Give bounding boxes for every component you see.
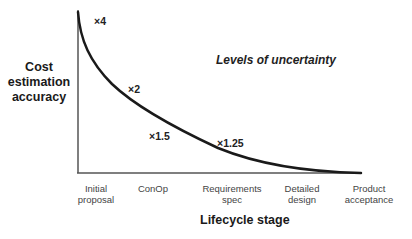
annotation-x2: ×2: [128, 83, 140, 95]
x-axis-label: Lifecycle stage: [200, 213, 290, 227]
annotation-x1-5: ×1.5: [149, 130, 170, 142]
annotation-x4: ×4: [94, 15, 106, 27]
y-axis-label-line-2: estimation: [4, 75, 74, 90]
annotation-x1-25: ×1.25: [217, 137, 244, 149]
x-tick-product-acceptance: Product acceptance: [345, 183, 394, 205]
x-tick-conop: ConOp: [138, 183, 168, 194]
chart-title: Levels of uncertainty: [216, 53, 336, 67]
x-tick-initial-proposal: Initial proposal: [78, 183, 114, 205]
y-axis-label-line-1: Cost: [4, 60, 74, 75]
y-axis-label: Cost estimation accuracy: [4, 60, 74, 105]
x-tick-requirements-spec: Requirements spec: [202, 183, 261, 205]
x-tick-detailed-design: Detailed design: [285, 183, 320, 205]
y-axis-label-line-3: accuracy: [4, 90, 74, 105]
